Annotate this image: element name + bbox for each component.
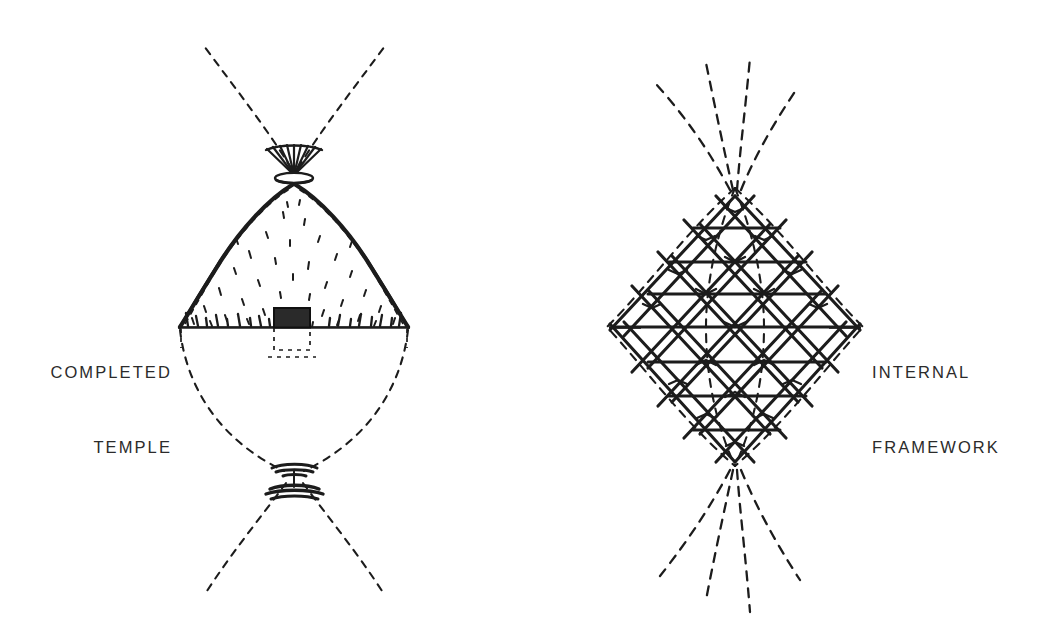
vesica-lower-arcs-right [660,470,800,612]
foundation-outline [268,328,316,357]
diamond-lattice [610,196,860,466]
label-completed-temple: COMPLETED TEMPLE [22,310,172,510]
label-internal-framework-line2: FRAMEWORK [872,435,1042,460]
label-internal-framework: INTERNAL FRAMEWORK [872,310,1042,510]
lower-node-finial [266,464,323,499]
thatched-dome [179,184,409,327]
label-completed-temple-line1: COMPLETED [22,360,172,385]
label-completed-temple-line2: TEMPLE [22,435,172,460]
doorway [274,308,310,328]
vesica-lower-arcs-left [180,330,408,594]
panel-internal-framework [607,58,863,612]
vesica-upper-arcs-right [656,58,796,190]
figure-root: COMPLETED TEMPLE INTERNAL FRAMEWORK [0,0,1042,631]
crown-finial [266,145,322,183]
panel-completed-temple [178,46,410,594]
label-internal-framework-line1: INTERNAL [872,360,1042,385]
footprint-ticks [181,329,407,348]
